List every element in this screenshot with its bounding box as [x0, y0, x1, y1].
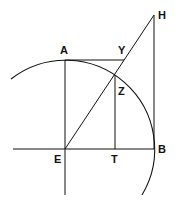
- label-Z: Z: [118, 86, 125, 97]
- label-B: B: [158, 144, 166, 155]
- circle-arc: [11, 60, 155, 195]
- label-Y: Y: [118, 45, 125, 56]
- label-H: H: [158, 10, 166, 21]
- geometry-diagram: A Y H Z E T B: [0, 0, 176, 203]
- line-EH: [65, 15, 154, 149]
- label-T: T: [111, 154, 118, 165]
- label-E: E: [54, 154, 61, 165]
- label-A: A: [60, 45, 68, 56]
- diagram-canvas: [0, 0, 176, 203]
